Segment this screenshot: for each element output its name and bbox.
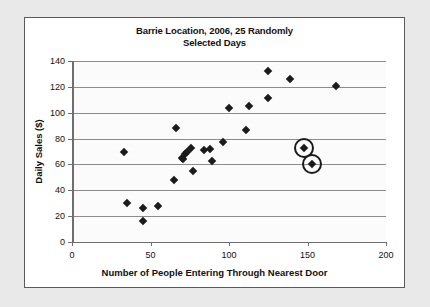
data-point (242, 125, 250, 133)
y-axis-tick-mark (68, 139, 72, 140)
y-axis-tick-mark (68, 87, 72, 88)
plot-area: 020406080100120140 050100150200 (72, 61, 386, 242)
y-axis-tick-label: 0 (60, 237, 65, 247)
data-point (138, 217, 146, 225)
chart-title: Barrie Location, 2006, 25 Randomly Selec… (25, 25, 404, 49)
x-axis-tick-label: 0 (69, 250, 74, 260)
chart-title-line-1: Barrie Location, 2006, 25 Randomly (25, 25, 404, 37)
y-axis-line (72, 61, 74, 242)
data-point (225, 103, 233, 111)
y-axis-title-label: Daily Sales ($) (33, 119, 44, 183)
data-point (264, 67, 272, 75)
x-axis-tick-label: 150 (300, 250, 315, 260)
y-axis-tick-label: 40 (55, 185, 65, 195)
gridline (72, 216, 386, 217)
x-axis-tick-mark (308, 242, 309, 246)
data-point (286, 75, 294, 83)
data-point (206, 145, 214, 153)
gridline (72, 113, 386, 114)
x-axis-tick-mark (72, 242, 73, 246)
x-axis-tick-mark (386, 242, 387, 246)
gridline (72, 190, 386, 191)
data-point (332, 81, 340, 89)
y-axis-tick-label: 60 (55, 159, 65, 169)
y-axis-tick-label: 100 (50, 108, 65, 118)
data-point (138, 204, 146, 212)
y-axis-tick-mark (68, 216, 72, 217)
x-axis-tick-label: 100 (221, 250, 236, 260)
x-axis-tick-label: 200 (378, 250, 393, 260)
x-axis-tick-mark (229, 242, 230, 246)
y-axis-tick-label: 80 (55, 134, 65, 144)
data-point (189, 167, 197, 175)
y-axis-tick-mark (68, 61, 72, 62)
y-axis-tick-label: 20 (55, 211, 65, 221)
y-axis-tick-label: 140 (50, 56, 65, 66)
data-point (218, 138, 226, 146)
x-axis-tick-mark (151, 242, 152, 246)
highlight-ring (302, 154, 322, 174)
chart-frame: Barrie Location, 2006, 25 Randomly Selec… (24, 17, 405, 288)
y-axis-tick-mark (68, 190, 72, 191)
gridline (72, 61, 386, 62)
x-axis-tick-label: 50 (145, 250, 155, 260)
data-point (171, 124, 179, 132)
x-axis-title: Number of People Entering Through Neares… (25, 267, 404, 278)
y-axis-tick-mark (68, 113, 72, 114)
data-point (120, 147, 128, 155)
data-point (170, 176, 178, 184)
chart-title-line-2: Selected Days (25, 37, 404, 49)
gridline (72, 164, 386, 165)
data-point (264, 94, 272, 102)
y-axis-tick-label: 120 (50, 82, 65, 92)
gridline (72, 139, 386, 140)
y-axis-title: Daily Sales ($) (31, 61, 45, 242)
data-point (245, 102, 253, 110)
data-point (154, 202, 162, 210)
y-axis-tick-mark (68, 164, 72, 165)
data-point (123, 199, 131, 207)
